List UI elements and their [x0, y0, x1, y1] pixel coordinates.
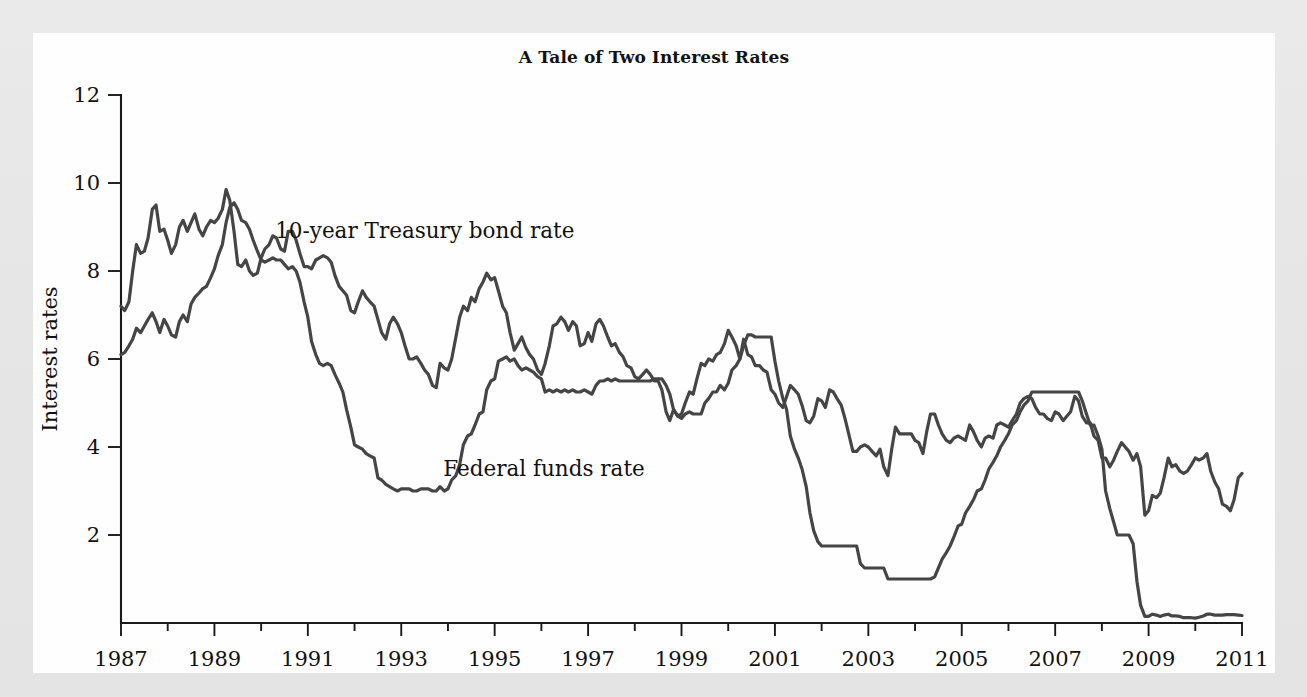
series-lines [121, 190, 1242, 619]
x-tick-label: 1997 [561, 647, 614, 671]
y-tick-label: 12 [73, 83, 100, 107]
axis-lines [121, 95, 1242, 623]
x-tick-label: 2001 [748, 647, 801, 671]
y-tick-label: 2 [87, 523, 100, 547]
y-tick-label: 8 [87, 259, 100, 283]
x-axis-ticks: 1987198919911993199519971999200120032005… [94, 623, 1268, 671]
x-tick-label: 1999 [655, 647, 708, 671]
figure-panel: A Tale of Two Interest Rates 24681012 19… [33, 33, 1275, 673]
x-tick-label: 1991 [281, 647, 334, 671]
x-tick-label: 2005 [935, 647, 988, 671]
series-label: 10-year Treasury bond rate [275, 218, 574, 243]
x-tick-label: 2003 [842, 647, 895, 671]
y-tick-label: 4 [87, 435, 100, 459]
figure-root: A Tale of Two Interest Rates 24681012 19… [0, 0, 1307, 697]
y-axis-title: Interest rates [38, 286, 62, 431]
x-tick-label: 1993 [375, 647, 428, 671]
series-annotations: 10-year Treasury bond rateFederal funds … [275, 218, 645, 481]
line-chart: 24681012 1987198919911993199519971999200… [33, 33, 1275, 673]
y-tick-label: 6 [87, 347, 100, 371]
y-axis-ticks: 24681012 [73, 83, 121, 547]
x-tick-label: 2011 [1215, 647, 1268, 671]
x-tick-label: 2009 [1122, 647, 1175, 671]
x-tick-label: 1987 [94, 647, 147, 671]
y-tick-label: 10 [73, 171, 100, 195]
x-tick-label: 1989 [188, 647, 241, 671]
x-tick-label: 2007 [1028, 647, 1081, 671]
x-tick-label: 1995 [468, 647, 521, 671]
y-axis-title-text: Interest rates [38, 286, 62, 431]
series-label: Federal funds rate [443, 456, 644, 481]
